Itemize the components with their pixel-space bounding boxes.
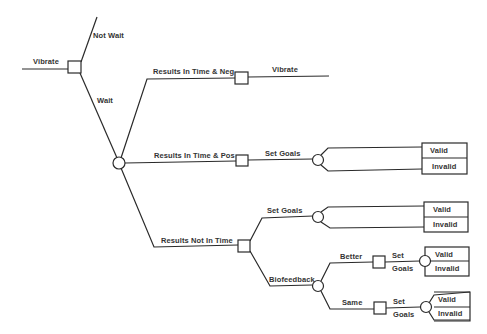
edge-better-set-goals — [385, 261, 420, 262]
decision-node-better — [373, 256, 385, 268]
label-wait: Wait — [97, 97, 113, 105]
label-not-wait: Not Wait — [93, 32, 124, 40]
decision-node-root — [68, 61, 81, 73]
label-better-valid: Valid — [435, 251, 453, 259]
decision-tree-diagram: Vibrate Not Wait Wait Results In Time & … — [0, 0, 487, 334]
label-same: Same — [342, 299, 362, 307]
label-nit-set-goals: Set Goals — [267, 207, 303, 215]
edge-pos-valid — [321, 147, 422, 155]
label-pos-invalid: Invalid — [432, 163, 456, 171]
edge-pos-invalid — [321, 165, 422, 171]
decision-node-pos — [236, 155, 248, 166]
label-better-goals: Goals — [392, 265, 413, 273]
label-same-valid: Valid — [438, 296, 456, 304]
label-neg-vibrate: Vibrate — [272, 66, 298, 74]
label-results-neg: Results In Time & Neg — [153, 68, 234, 76]
label-pos-valid: Valid — [430, 147, 448, 155]
label-biofeedback: Biofeedback — [269, 276, 315, 284]
edge-neg-vibrate — [248, 76, 329, 77]
label-nit-valid: Valid — [433, 206, 451, 214]
edge-nit-set-goals — [250, 216, 313, 241]
label-better: Better — [340, 253, 362, 261]
edge-same-set-goals — [386, 307, 420, 308]
edge-nit-valid — [321, 206, 424, 212]
label-vibrate-root: Vibrate — [33, 58, 59, 66]
edge-results-pos — [125, 161, 236, 163]
decision-node-not-in-time — [238, 240, 250, 252]
chance-node-same-goals — [421, 302, 432, 313]
decision-node-neg — [235, 72, 248, 84]
edge-better — [321, 262, 373, 281]
edge-wait — [80, 73, 117, 158]
chance-node-wait — [113, 157, 125, 169]
label-pos-set-goals: Set Goals — [265, 150, 301, 158]
label-results-pos: Results In Time & Pos — [154, 152, 235, 160]
label-better-invalid: Invalid — [435, 265, 459, 273]
label-nit-invalid: Invalid — [433, 221, 457, 229]
label-results-not-in-time: Results Not In Time — [161, 237, 233, 245]
label-same-invalid: Invalid — [438, 310, 462, 318]
chance-node-pos-goals — [313, 155, 324, 166]
chance-node-better-goals — [420, 256, 431, 267]
tree-lines — [0, 0, 487, 334]
chance-node-nit-goals — [313, 212, 324, 223]
decision-node-same — [374, 302, 386, 314]
edge-results-neg — [121, 78, 235, 158]
edge-pos-set-goals — [248, 159, 313, 160]
label-better-set: Set — [392, 252, 404, 260]
label-same-set: Set — [393, 298, 405, 306]
edge-nit-invalid — [321, 222, 424, 228]
label-same-goals: Goals — [393, 311, 414, 319]
